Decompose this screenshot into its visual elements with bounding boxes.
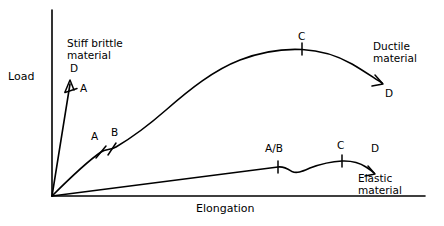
- point-label-elastic-ab: A/B: [265, 143, 283, 155]
- load-elongation-diagram: Load Elongation Stiff brittle material D…: [0, 0, 444, 226]
- point-label-ductile-c: C: [298, 31, 305, 43]
- curve-label-ductile: Ductile material: [373, 41, 417, 65]
- curve-stiff-brittle: [52, 84, 70, 196]
- curve-label-stiff-brittle: Stiff brittle material: [67, 38, 123, 62]
- point-label-elastic-c: C: [337, 140, 344, 152]
- point-label-ductile-d: D: [385, 88, 393, 100]
- x-axis-label: Elongation: [196, 203, 255, 215]
- curve-elastic: [52, 161, 374, 196]
- ductile-tick-a: [96, 146, 106, 158]
- point-label-elastic-d: D: [371, 143, 379, 155]
- curve-ductile: [52, 49, 382, 196]
- curve-label-elastic: Elastic material: [358, 173, 402, 197]
- point-label-ductile-b: B: [111, 127, 118, 139]
- point-label-ductile-a: A: [91, 131, 98, 143]
- point-label-brittle-d: D: [70, 63, 78, 75]
- y-axis-label: Load: [8, 71, 34, 83]
- point-label-brittle-a: A: [80, 83, 87, 95]
